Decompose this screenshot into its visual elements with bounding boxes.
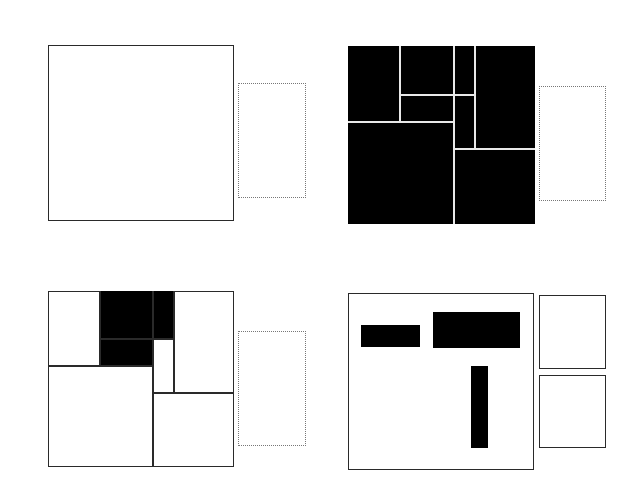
bottom-left-divider	[152, 291, 154, 467]
bottom-right-side-box	[539, 375, 606, 448]
top-right-divider	[474, 46, 476, 149]
top-right-frame	[348, 46, 535, 224]
bottom-left-divider	[99, 291, 101, 366]
bottom-right-bar	[471, 366, 488, 448]
top-right-divider	[400, 94, 475, 96]
bottom-right-bar	[361, 325, 420, 347]
bottom-left-filled-cell	[100, 291, 153, 339]
bottom-left-divider	[153, 392, 234, 394]
top-right-divider	[348, 121, 454, 123]
top-right-divider	[453, 46, 455, 224]
bottom-left-divider	[48, 365, 153, 367]
bottom-right-side-box	[539, 295, 606, 369]
top-right-divider	[399, 46, 401, 122]
bottom-left-divider	[173, 291, 175, 393]
bottom-left-filled-cell	[153, 291, 174, 339]
bottom-left-filled-cell	[100, 339, 153, 366]
bottom-left-divider	[100, 338, 174, 340]
top-left-dotted-box	[238, 83, 306, 198]
top-right-divider	[454, 148, 535, 150]
bottom-left-dotted-box	[238, 331, 306, 446]
top-right-dotted-box	[539, 86, 606, 201]
top-left-frame	[48, 45, 234, 221]
bottom-right-bar	[433, 312, 520, 348]
